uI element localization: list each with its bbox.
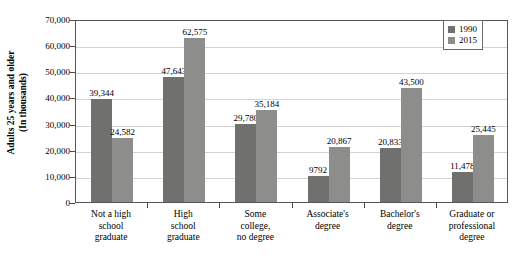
x-axis-category-label-line: school [73,221,149,233]
x-axis-category-label-line: Some [217,209,293,221]
x-axis-category-label: Highschoolgraduate [145,209,221,244]
x-axis-category-label-line: degree [290,221,366,233]
bar-value-label: 24,582 [110,127,135,137]
x-axis-category-label-line: Associate's [290,209,366,221]
y-axis-tick-label: 50,000 [45,67,70,77]
x-axis-category-label: Associate'sdegree [290,209,366,232]
x-axis-category-label-line: college, [217,221,293,233]
x-axis-category-label: Graduate orprofessionaldegree [434,209,510,244]
bar [184,38,205,202]
bar-value-label: 20,833 [378,137,403,147]
bar-value-label: 11,478 [450,161,474,171]
x-axis-category-label: Somecollege,no degree [217,209,293,244]
bar-value-label: 29,780 [234,113,259,123]
y-axis-tick-mark [70,203,75,204]
y-axis-title-line-1: Adults 25 years and older [7,51,19,155]
x-axis-category-label: Not a highschoolgraduate [73,209,149,244]
x-axis-category-label-line: degree [362,221,438,233]
x-axis-category-label: Bachelor'sdegree [362,209,438,232]
bar [91,99,112,202]
x-axis-category-label-line: no degree [217,232,293,244]
x-axis-tick-mark [364,203,365,208]
legend-swatch-icon [448,26,455,33]
bar-value-label: 62,575 [182,27,207,37]
bar-value-label: 25,445 [471,124,496,134]
bar [256,110,277,202]
bar-value-label: 43,500 [399,77,424,87]
legend-label: 1990 [459,24,477,35]
bar [401,88,422,202]
bar-value-label: 47,643 [161,66,186,76]
x-axis-category-label-line: Not a high [73,209,149,221]
bar [473,135,494,202]
x-axis-category-label-line: graduate [73,232,149,244]
bar [163,77,184,202]
x-axis-category-label-line: graduate [145,232,221,244]
bar-chart: Adults 25 years and older (In thousands)… [0,0,518,256]
y-axis-tick-label: 40,000 [45,93,70,103]
y-axis-title-line-2: (In thousands) [18,51,30,155]
legend: 19902015 [443,20,483,50]
bar [308,176,329,202]
x-axis-tick-mark [292,203,293,208]
bar-value-label: 35,184 [255,99,280,109]
bar-value-label: 9792 [309,165,327,175]
legend-label: 2015 [459,35,477,46]
x-axis-category-label-line: professional [434,221,510,233]
y-axis-tick-labels: 010,00020,00030,00040,00050,00060,00070,… [30,20,70,203]
y-axis-tick-label: 10,000 [45,172,70,182]
x-axis-tick-mark [436,203,437,208]
legend-item: 2015 [448,35,477,46]
y-axis-tick-label: 60,000 [45,41,70,51]
bar-value-label: 39,344 [89,88,114,98]
x-axis-category-label-line: degree [434,232,510,244]
bar [329,147,350,202]
y-axis-tick-label: 20,000 [45,146,70,156]
x-axis-category-label-line: Graduate or [434,209,510,221]
bar [112,138,133,202]
bar [380,148,401,202]
bar-value-label: 20,867 [327,136,352,146]
y-axis-tick-label: 70,000 [45,15,70,25]
y-axis-tick-label: 30,000 [45,120,70,130]
x-axis-tick-mark [147,203,148,208]
bar [452,172,473,202]
x-axis-category-labels: Not a highschoolgraduateHighschoolgradua… [75,209,508,256]
x-axis-category-label-line: High [145,209,221,221]
legend-item: 1990 [448,24,477,35]
legend-swatch-icon [448,37,455,44]
x-axis-category-label-line: school [145,221,221,233]
bar [235,124,256,202]
x-axis-tick-mark [219,203,220,208]
x-axis-category-label-line: Bachelor's [362,209,438,221]
